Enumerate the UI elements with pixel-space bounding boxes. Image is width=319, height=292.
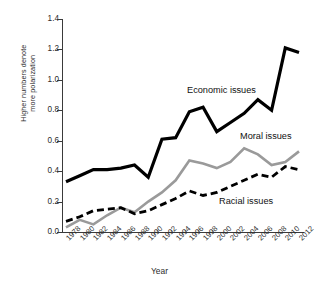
annotation-moral-issues: Moral issues [240,131,292,141]
series-line-racial-issues [66,167,299,222]
annotation-economic-issues: Economic issues [187,85,256,95]
y-tick-label: 0.8 [35,105,59,114]
y-tick-mark [57,110,62,111]
chart-figure: Higher numbers denote more polarization … [0,0,319,292]
series-line-economic-issues [66,48,299,182]
y-tick-label: 1.2 [35,44,59,53]
y-tick-label: 0.2 [35,197,59,206]
annotation-racial-issues: Racial issues [219,196,273,206]
y-tick-mark [57,19,62,20]
y-axis-title-line1: Higher numbers denote [19,8,28,158]
y-tick-label: 1.4 [35,14,59,23]
y-tick-label: 0.4 [35,166,59,175]
series-line-moral-issues [66,148,299,227]
y-tick-label: 0.0 [35,227,59,236]
y-tick-mark [57,49,62,50]
y-axis-tick-labels: 1.41.21.00.80.60.40.20.0 [33,0,59,292]
y-tick-mark [57,171,62,172]
y-tick-mark [57,80,62,81]
y-tick-label: 1.0 [35,75,59,84]
y-tick-label: 0.6 [35,136,59,145]
y-tick-mark [57,232,62,233]
y-tick-mark [57,202,62,203]
x-axis-title: Year [0,266,319,276]
y-tick-mark [57,141,62,142]
